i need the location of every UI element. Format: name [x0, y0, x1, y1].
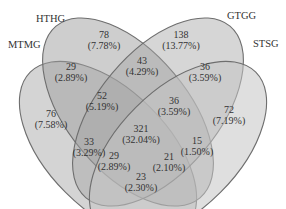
svg-text:23: 23 [136, 171, 146, 182]
svg-text:43: 43 [137, 55, 147, 66]
svg-text:33: 33 [84, 136, 94, 147]
svg-text:(1.50%): (1.50%) [181, 146, 214, 158]
svg-text:(4.29%): (4.29%) [126, 66, 159, 78]
svg-text:321: 321 [134, 123, 149, 134]
svg-text:(3.59%): (3.59%) [158, 106, 191, 118]
svg-text:36: 36 [169, 95, 179, 106]
svg-text:72: 72 [224, 104, 234, 115]
svg-text:36: 36 [200, 61, 210, 72]
venn-diagram: HTHG MTMG GTGG STSG 78 (7.78%) 138 (13.7… [0, 0, 286, 209]
svg-text:(3.59%): (3.59%) [189, 72, 222, 84]
svg-text:(7.78%): (7.78%) [88, 40, 121, 52]
svg-text:76: 76 [46, 108, 56, 119]
set-label-gtgg: GTGG [227, 10, 257, 21]
svg-text:78: 78 [99, 29, 109, 40]
svg-text:(2.30%): (2.30%) [125, 182, 158, 194]
svg-text:(32.04%): (32.04%) [122, 134, 160, 146]
svg-text:29: 29 [66, 61, 76, 72]
svg-text:52: 52 [97, 90, 107, 101]
svg-text:(2.89%): (2.89%) [55, 72, 88, 84]
svg-text:(2.89%): (2.89%) [98, 161, 131, 173]
svg-text:(13.77%): (13.77%) [162, 40, 200, 52]
svg-text:(3.29%): (3.29%) [73, 147, 106, 159]
svg-text:29: 29 [109, 150, 119, 161]
svg-text:138: 138 [174, 29, 189, 40]
svg-text:(7.19%): (7.19%) [213, 115, 246, 127]
set-label-mtmg: MTMG [8, 39, 41, 50]
svg-text:(2.10%): (2.10%) [153, 162, 186, 174]
svg-text:21: 21 [164, 151, 174, 162]
set-label-hthg: HTHG [36, 13, 66, 24]
set-label-stsg: STSG [253, 38, 279, 49]
svg-text:(7.58%): (7.58%) [35, 119, 68, 131]
svg-text:15: 15 [192, 135, 202, 146]
svg-text:(5.19%): (5.19%) [86, 101, 119, 113]
